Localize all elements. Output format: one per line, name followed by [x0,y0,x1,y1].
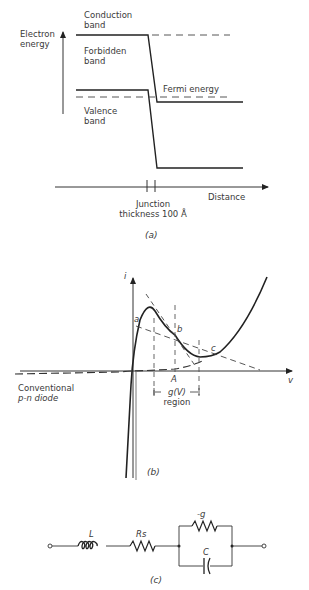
distance-axis-label: Distance [208,192,245,202]
junction-line1: Junction [117,199,189,209]
negative-conductance-label: -g [197,509,205,519]
point-b-label: b [177,324,182,334]
caption-a: (a) [145,230,158,240]
region-label-line2: region [154,397,200,407]
series-resistance-label: Rs [136,529,146,539]
equivalent-circuit [48,521,266,574]
capacitance-label: C [203,547,209,557]
y-axis-label: Electron energy [20,29,55,49]
forbidden-band-line1: Forbidden [84,46,126,56]
voltage-axis-label: v [288,375,293,385]
diode-label-line2: p-n diode [18,393,74,403]
negative-conductance-region-label: g(V) region [154,387,200,407]
region-label-line1: g(V) [154,387,200,397]
iv-characteristic-plot [15,277,292,480]
caption-c: (c) [150,575,162,585]
caption-b: (b) [147,467,160,477]
conduction-band-line1: Conduction [84,10,132,20]
conduction-band-label: Conduction band [84,10,132,30]
inductor-label: L [89,529,94,539]
valence-band-label: Valence band [84,106,117,126]
junction-line2: thickness 100 Å [117,209,189,219]
point-c-label: c [211,343,216,353]
y-axis-label-line2: energy [20,39,55,49]
valence-band-line1: Valence [84,106,117,116]
point-A-label: A [171,374,177,384]
fermi-energy-label: Fermi energy [163,84,219,94]
current-axis-label: i [124,271,126,281]
forbidden-band-line2: band [84,56,126,66]
valence-band-line2: band [84,116,117,126]
forbidden-band-label: Forbidden band [84,46,126,66]
conventional-diode-label: Conventional p-n diode [18,383,74,403]
point-a-label: a [134,314,139,324]
diode-label-line1: Conventional [18,383,74,393]
junction-thickness-label: Junction thickness 100 Å [117,199,189,219]
y-axis-label-line1: Electron [20,29,55,39]
diagram-canvas [0,0,309,590]
conduction-band-line2: band [84,20,132,30]
